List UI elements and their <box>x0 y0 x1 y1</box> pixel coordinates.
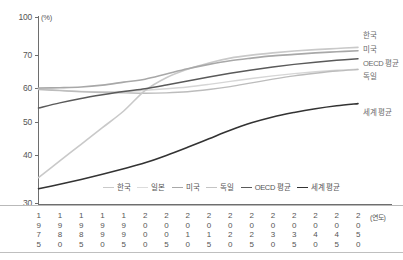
legend-swatch-icon <box>172 187 183 188</box>
legend-swatch-icon <box>137 187 148 188</box>
x-tick-label-2005: 2005 <box>160 211 172 249</box>
x-tick-label-2050: 2050 <box>352 211 364 249</box>
x-axis-unit-label: (연도) <box>370 212 385 222</box>
x-tick-label-2020: 2020 <box>224 211 236 249</box>
series-end-label-oecd: OECD 평균 <box>363 57 399 68</box>
series-line-독일 <box>39 70 359 94</box>
x-tick-label-2040: 2040 <box>309 211 321 249</box>
legend-label: OECD 평균 <box>255 183 291 192</box>
axis-group <box>35 16 392 205</box>
series-line-일본 <box>39 69 359 92</box>
x-tick-label-2045: 2045 <box>331 211 343 249</box>
x-tick-label-2000: 2000 <box>139 211 151 249</box>
legend-swatch-icon <box>103 187 114 188</box>
legend-item-4[interactable]: OECD 평균 <box>241 183 291 192</box>
series-line-미국 <box>39 51 359 88</box>
x-tick-label-2035: 2035 <box>288 211 300 249</box>
legend-swatch-icon <box>206 187 217 188</box>
legend-label: 세계 평균 <box>311 183 340 192</box>
legend-label: 한국 <box>117 183 130 192</box>
chart-legend: 한국일본미국독일OECD 평균세계 평균 <box>103 183 340 192</box>
legend-swatch-icon <box>297 187 308 188</box>
x-tick-label-2025: 2025 <box>246 211 258 249</box>
bottom-border <box>0 252 403 253</box>
legend-label: 일본 <box>151 183 164 192</box>
x-tick-label-1995: 1995 <box>118 211 130 249</box>
series-end-label-korea: 한국 <box>363 29 376 40</box>
legend-item-5[interactable]: 세계 평균 <box>297 183 340 192</box>
chart-container: 100 70 60 50 40 30 (%) 한국 미국 OECD 평균 독일 … <box>0 0 403 260</box>
x-tick-label-1980: 1980 <box>54 211 66 249</box>
x-tick-label-2030: 2030 <box>267 211 279 249</box>
x-tick-label-1975: 1975 <box>33 211 45 249</box>
legend-label: 미국 <box>186 183 199 192</box>
legend-item-3[interactable]: 독일 <box>206 183 233 192</box>
x-tick-label-1990: 1990 <box>96 211 108 249</box>
series-end-label-usa: 미국 <box>363 43 376 54</box>
legend-label: 독일 <box>220 183 233 192</box>
legend-item-0[interactable]: 한국 <box>103 183 130 192</box>
x-tick-label-2015: 2015 <box>203 211 215 249</box>
series-group <box>39 47 359 188</box>
series-end-label-world: 세계 평균 <box>363 106 392 117</box>
x-tick-label-1985: 1985 <box>75 211 87 249</box>
legend-item-2[interactable]: 미국 <box>172 183 199 192</box>
x-axis-separator <box>0 205 403 206</box>
series-line-세계-평균 <box>39 104 359 189</box>
series-end-label-germany: 독일 <box>363 70 376 81</box>
legend-swatch-icon <box>241 187 252 188</box>
x-tick-label-2010: 2010 <box>182 211 194 249</box>
legend-item-1[interactable]: 일본 <box>137 183 164 192</box>
